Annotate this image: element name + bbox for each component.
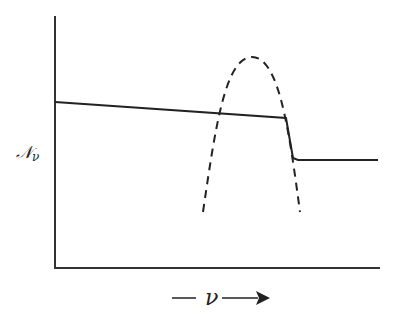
y-axis-label: 𝒩ν [16,142,39,164]
dashed-curve [203,57,300,212]
diagram-canvas [0,0,398,322]
solid-curve [55,102,378,160]
arrow-right-icon [256,291,270,305]
